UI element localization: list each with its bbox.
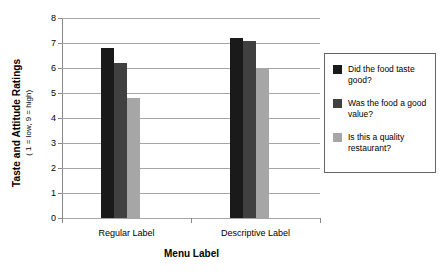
y-tick-label: 0 (51, 213, 56, 223)
y-tick-label: 3 (51, 138, 56, 148)
bar (243, 41, 256, 219)
bar (230, 38, 243, 218)
bar (114, 63, 127, 218)
y-axis-title-sub: ( 1 = low, 9 = high) (24, 23, 33, 223)
y-tick-mark (58, 93, 62, 94)
y-tick-label: 6 (51, 63, 56, 73)
legend-item: Was the food a good value? (333, 98, 429, 121)
x-category-label: Descriptive Label (221, 228, 290, 238)
y-tick-label: 1 (51, 188, 56, 198)
y-tick-label: 8 (51, 13, 56, 23)
y-axis-title: Taste and Attitude Ratings ( 1 = low, 9 … (11, 23, 33, 223)
x-tick-mark (320, 218, 321, 223)
legend-label: Is this a quality restaurant? (348, 132, 429, 155)
y-tick-mark (58, 18, 62, 19)
legend-swatch (333, 133, 342, 142)
bar (256, 69, 269, 218)
y-tick-mark (58, 118, 62, 119)
x-category-label: Regular Label (98, 228, 154, 238)
x-tick-mark (191, 218, 192, 223)
bar (127, 98, 140, 218)
bar (101, 48, 114, 218)
legend-label: Was the food a good value? (348, 98, 429, 121)
chart-legend: Did the food taste good?Was the food a g… (324, 53, 436, 173)
y-axis-title-main: Taste and Attitude Ratings (11, 23, 23, 223)
gridline (62, 43, 320, 44)
y-tick-label: 7 (51, 38, 56, 48)
bar-chart: Taste and Attitude Ratings ( 1 = low, 9 … (0, 0, 444, 272)
legend-item: Is this a quality restaurant? (333, 132, 429, 155)
y-tick-mark (58, 68, 62, 69)
x-axis-title: Menu Label (62, 248, 321, 259)
legend-label: Did the food taste good? (348, 64, 429, 87)
y-tick-label: 2 (51, 163, 56, 173)
legend-swatch (333, 99, 342, 108)
gridline (62, 18, 320, 19)
legend-swatch (333, 65, 342, 74)
x-tick-mark (62, 218, 63, 223)
y-tick-label: 5 (51, 88, 56, 98)
y-tick-mark (58, 143, 62, 144)
y-tick-mark (58, 43, 62, 44)
y-tick-mark (58, 168, 62, 169)
y-tick-mark (58, 193, 62, 194)
y-tick-label: 4 (51, 113, 56, 123)
plot-area: 012345678 (62, 18, 320, 218)
legend-item: Did the food taste good? (333, 64, 429, 87)
